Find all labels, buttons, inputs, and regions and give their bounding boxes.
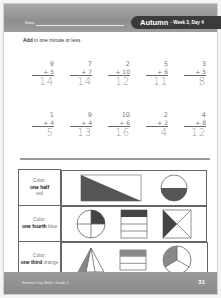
- addition-problem: 10+ 616: [108, 111, 130, 138]
- addend-bottom: + 10: [108, 68, 130, 76]
- half-rectangle-triangle-shape[interactable]: [80, 174, 142, 202]
- answer[interactable]: 12: [184, 127, 206, 138]
- fraction-label: Color: one half red: [19, 170, 61, 206]
- instruction-verb: Add: [23, 37, 33, 43]
- fraction-table: Color: one half red Color: one fourth bl…: [18, 169, 208, 278]
- addend-top: 2: [146, 111, 168, 119]
- label-prefix: Color:: [33, 217, 46, 222]
- addition-problem: 9+ 413: [70, 111, 92, 138]
- problem-row-1: 9+ 514 7+ 714 2+ 1012 5+ 611 3+ 58: [24, 60, 214, 87]
- header-banner: Name Autumn - Week 3, Day 4: [4, 4, 217, 32]
- addend-bottom: + 6: [146, 68, 168, 76]
- label-fraction: one third: [21, 259, 42, 265]
- quarter-rectangle-shape[interactable]: [120, 209, 148, 239]
- answer[interactable]: 14: [70, 76, 92, 87]
- book-title: Summer Day Skills • Grade 2: [22, 281, 69, 285]
- addition-problem: 2+ 1012: [108, 60, 130, 87]
- addition-problem: 7+ 714: [70, 60, 92, 87]
- footer-banner: Summer Day Skills • Grade 2 31: [4, 272, 217, 294]
- addend-bottom: + 7: [70, 68, 92, 76]
- page-number: 31: [198, 279, 205, 285]
- answer[interactable]: 8: [184, 76, 206, 87]
- fraction-row-fourth: Color: one fourth blue: [19, 206, 208, 242]
- answer[interactable]: 14: [32, 76, 54, 87]
- addend-top: 9: [32, 60, 54, 68]
- addend-bottom: + 5: [32, 68, 54, 76]
- label-prefix: Color:: [33, 178, 46, 183]
- answer[interactable]: 16: [108, 127, 130, 138]
- addend-bottom: + 6: [108, 119, 130, 127]
- addition-problem: 2+ 24: [146, 111, 168, 138]
- addend-bottom: + 4: [70, 119, 92, 127]
- fraction-label: Color: one fourth blue: [19, 206, 61, 242]
- instruction-text: in one minute or less.: [33, 37, 82, 43]
- label-color: blue: [48, 224, 57, 229]
- addend-bottom: + 5: [184, 68, 206, 76]
- addend-bottom: + 4: [32, 119, 54, 127]
- third-triangle-shape[interactable]: [77, 247, 105, 273]
- page-title: Autumn: [140, 18, 168, 27]
- addend-top: 4: [184, 111, 206, 119]
- addend-bottom: + 8: [184, 119, 206, 127]
- label-color: red: [36, 191, 43, 196]
- addition-problem: 5+ 611: [146, 60, 168, 87]
- answer[interactable]: 4: [146, 127, 168, 138]
- label-color: orange: [43, 260, 58, 265]
- worksheet-page: Name Autumn - Week 3, Day 4 Add in one m…: [3, 3, 218, 295]
- label-fraction: one half: [30, 184, 49, 190]
- answer[interactable]: 12: [108, 76, 130, 87]
- half-circle-shape[interactable]: [160, 174, 188, 202]
- quarter-square-x-shape[interactable]: [162, 209, 192, 239]
- addend-top: 5: [146, 60, 168, 68]
- answer[interactable]: 13: [70, 127, 92, 138]
- quarter-circle-shape[interactable]: [76, 209, 106, 239]
- label-fraction: one fourth: [22, 223, 47, 229]
- addition-problem: 9+ 514: [32, 60, 54, 87]
- section-divider: [20, 158, 210, 160]
- addend-top: 10: [108, 111, 130, 119]
- fraction-row-half: Color: one half red: [19, 170, 208, 206]
- problem-row-2: 1+ 45 9+ 413 10+ 616 2+ 24 4+ 812: [24, 111, 214, 138]
- addend-bottom: + 2: [146, 119, 168, 127]
- addend-top: 1: [32, 111, 54, 119]
- page-subtitle: - Week 3, Day 4: [170, 20, 203, 25]
- name-label: Name: [25, 21, 34, 25]
- name-input-line[interactable]: [36, 25, 124, 26]
- addition-problem: 3+ 58: [184, 60, 206, 87]
- answer[interactable]: 5: [32, 127, 54, 138]
- addend-top: 2: [108, 60, 130, 68]
- third-circle-shape[interactable]: [162, 245, 192, 275]
- title-pill: Autumn - Week 3, Day 4: [131, 16, 221, 29]
- instruction: Add in one minute or less.: [23, 37, 82, 43]
- addend-top: 9: [70, 111, 92, 119]
- addition-problem: 1+ 45: [32, 111, 54, 138]
- third-rectangle-shape[interactable]: [119, 249, 147, 271]
- addition-problem: 4+ 812: [184, 111, 206, 138]
- addend-top: 7: [70, 60, 92, 68]
- label-prefix: Color:: [33, 253, 46, 258]
- shapes-cell: [61, 206, 207, 242]
- addend-top: 3: [184, 60, 206, 68]
- shapes-cell: [61, 170, 207, 206]
- answer[interactable]: 11: [146, 76, 168, 87]
